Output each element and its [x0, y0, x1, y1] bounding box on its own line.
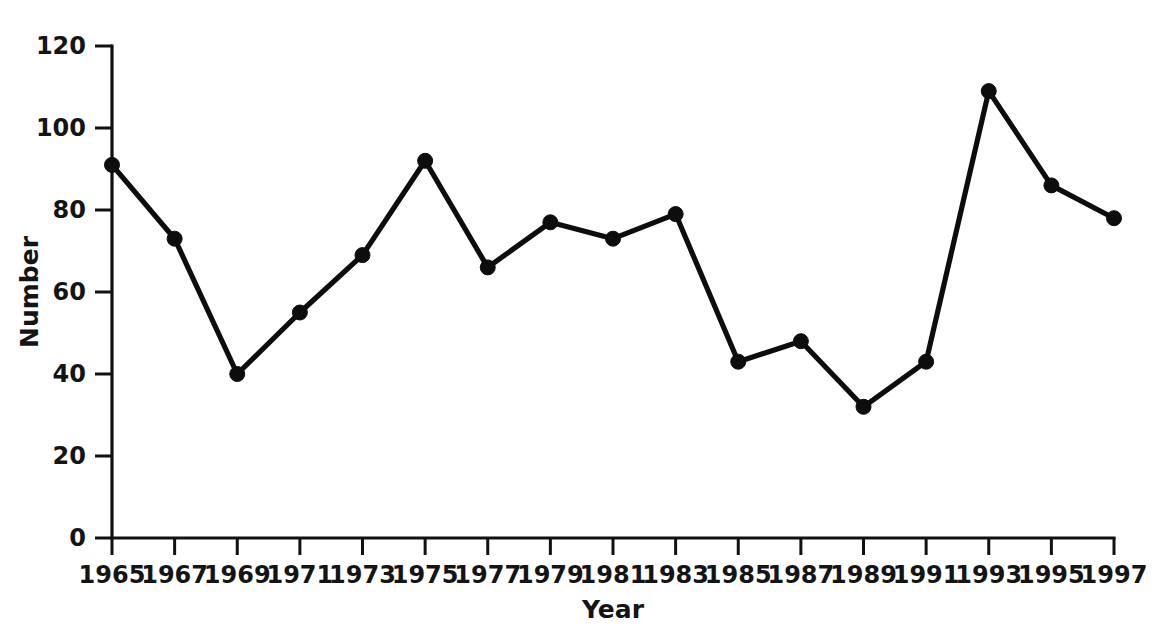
- y-axis-tick-label: 40: [53, 360, 86, 388]
- x-axis-tick-label: 1975: [392, 561, 459, 589]
- y-axis-tick-label: 20: [53, 442, 86, 470]
- x-axis-tick-label: 1989: [830, 561, 897, 589]
- data-point-marker: [793, 334, 808, 349]
- data-series-line: [112, 91, 1114, 407]
- data-point-marker: [230, 367, 245, 382]
- x-axis-tick-label: 1977: [454, 561, 521, 589]
- x-axis-tick-label: 1967: [141, 561, 208, 589]
- y-axis-tick-label: 120: [36, 32, 86, 60]
- x-axis-tick-label: 1979: [517, 561, 584, 589]
- y-axis-tick-label: 0: [69, 524, 86, 552]
- x-axis-tick-label: 1995: [1018, 561, 1085, 589]
- y-axis-title: Number: [15, 235, 44, 348]
- data-point-marker: [606, 231, 621, 246]
- data-point-marker: [668, 207, 683, 222]
- chart-figure: 0204060801001201965196719691971197319751…: [0, 0, 1161, 632]
- data-point-marker: [355, 248, 370, 263]
- x-axis-tick-label: 1987: [767, 561, 834, 589]
- x-axis-tick-label: 1973: [329, 561, 396, 589]
- data-point-marker: [480, 260, 495, 275]
- x-axis-tick-label: 1969: [204, 561, 271, 589]
- data-point-marker: [919, 354, 934, 369]
- x-axis-tick-label: 1997: [1081, 561, 1148, 589]
- x-axis-tick-label: 1983: [642, 561, 709, 589]
- data-point-marker: [1044, 178, 1059, 193]
- data-point-marker: [856, 399, 871, 414]
- x-axis-title: Year: [581, 595, 645, 624]
- data-point-marker: [981, 84, 996, 99]
- x-axis-tick-label: 1991: [893, 561, 960, 589]
- x-axis-tick-label: 1971: [266, 561, 333, 589]
- data-point-marker: [1107, 211, 1122, 226]
- data-point-marker: [543, 215, 558, 230]
- x-axis-tick-label: 1993: [955, 561, 1022, 589]
- x-axis-tick-label: 1965: [79, 561, 146, 589]
- axis-spines: [112, 46, 1114, 538]
- line-chart-canvas: 0204060801001201965196719691971197319751…: [0, 0, 1161, 632]
- data-point-marker: [731, 354, 746, 369]
- y-axis-tick-label: 100: [36, 114, 86, 142]
- data-point-marker: [105, 157, 120, 172]
- x-axis-tick-label: 1985: [705, 561, 772, 589]
- data-point-marker: [292, 305, 307, 320]
- y-axis-tick-label: 60: [53, 278, 86, 306]
- data-point-marker: [167, 231, 182, 246]
- y-axis-tick-label: 80: [53, 196, 86, 224]
- x-axis-tick-label: 1981: [580, 561, 647, 589]
- data-point-marker: [418, 153, 433, 168]
